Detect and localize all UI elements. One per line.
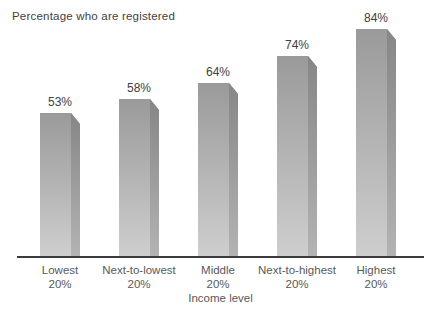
bar-group: 84% [356,11,396,256]
bar-value-label: 84% [364,11,388,25]
bar [198,83,238,256]
bar-side-face [308,56,317,256]
x-tick-label: Highest 20% [330,263,422,291]
bar-side-face [387,29,396,256]
bar-group: 53% [40,95,80,256]
x-tick-label-line1: Highest [330,263,422,277]
x-axis-line [17,256,424,258]
bar [356,29,396,256]
bar-side-face [71,113,80,256]
bar-group: 74% [277,38,317,256]
x-axis-title: Income level [17,292,424,304]
bar-group: 58% [119,81,159,256]
bar [40,113,80,256]
bar-value-label: 53% [48,95,72,109]
bar-chart: Percentage who are registered 53% 58% 64… [0,0,435,315]
bar-group: 64% [198,65,238,256]
bar-value-label: 64% [206,65,230,79]
bar [277,56,317,256]
x-tick-label-line2: 20% [330,277,422,291]
bar-side-face [229,83,238,256]
bar-value-label: 58% [127,81,151,95]
bar [119,99,159,256]
bar-side-face [150,99,159,256]
bar-value-label: 74% [285,38,309,52]
chart-title: Percentage who are registered [12,10,175,22]
